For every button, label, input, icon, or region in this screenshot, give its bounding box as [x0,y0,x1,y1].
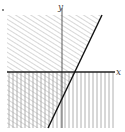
inequality-diagram: y x [0,0,125,132]
y-axis-label: y [57,2,64,12]
marker-dot [2,9,4,11]
x-axis-label: x [116,67,121,77]
